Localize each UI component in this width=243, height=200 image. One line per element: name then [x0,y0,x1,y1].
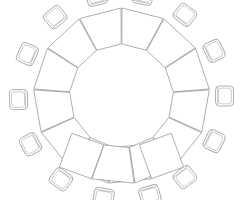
chair-outline [15,41,40,67]
chair-outline [202,38,227,64]
floor-plan-drawing [0,0,243,200]
chair-outline [131,0,154,6]
chair[interactable] [131,0,154,6]
chair[interactable] [138,184,162,200]
chair[interactable] [202,128,227,154]
chair[interactable] [216,86,234,106]
chair-outline [202,128,227,154]
chair[interactable] [18,131,43,157]
chair[interactable] [85,0,109,7]
chair[interactable] [92,187,115,200]
chair[interactable] [202,38,227,64]
chair[interactable] [9,89,28,110]
chair[interactable] [42,4,69,31]
chair[interactable] [171,2,198,28]
seating-plan-canvas [0,0,243,200]
chair[interactable] [15,41,40,67]
horseshoe-table[interactable] [34,8,210,183]
